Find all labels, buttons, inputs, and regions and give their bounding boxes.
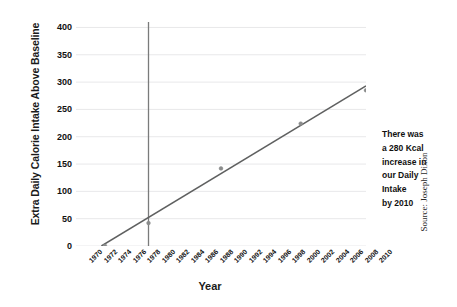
- y-axis-tick-labels: 050100150200250300350400: [36, 22, 72, 246]
- source-credit: Source: Joseph Dixon: [419, 132, 429, 252]
- data-point: [364, 88, 366, 92]
- annotation-line-5: Intake: [382, 183, 448, 197]
- x-axis-tick-labels: 1970197219741976197819801982198419861988…: [76, 248, 366, 278]
- annotation-line-1: There was: [382, 128, 448, 142]
- y-tick-label: 150: [38, 159, 72, 169]
- x-tick-label: 1978: [146, 248, 162, 264]
- gridlines: [76, 27, 366, 246]
- x-tick-label: 1976: [131, 248, 147, 264]
- x-tick-label: 1974: [117, 248, 133, 264]
- y-tick-label: 200: [38, 132, 72, 142]
- x-tick-label: 1992: [247, 248, 263, 264]
- y-tick-label: 350: [38, 50, 72, 60]
- x-tick-label: 1994: [262, 248, 278, 264]
- x-tick-label: 1990: [233, 248, 249, 264]
- y-tick-label: 0: [38, 241, 72, 251]
- x-tick-label: 2002: [320, 248, 336, 264]
- y-tick-label: 300: [38, 77, 72, 87]
- annotation-line-6: by 2010: [382, 197, 448, 211]
- x-tick-label: 1986: [204, 248, 220, 264]
- y-tick-label: 400: [38, 22, 72, 32]
- data-point: [299, 122, 303, 126]
- callout-annotation: There was a 280 Kcal increase in our Dai…: [382, 128, 448, 211]
- x-tick-label: 1982: [175, 248, 191, 264]
- y-tick-label: 50: [38, 214, 72, 224]
- plot-area: [76, 22, 366, 246]
- annotation-line-2: a 280 Kcal: [382, 142, 448, 156]
- chart-canvas: [76, 22, 366, 246]
- data-point: [147, 221, 151, 225]
- data-point: [219, 167, 223, 171]
- annotation-line-4: our Daily: [382, 169, 448, 183]
- chart-figure: Extra Daily Calorie Intake Above Baselin…: [0, 0, 457, 307]
- x-tick-label: 1998: [291, 248, 307, 264]
- x-tick-label: 2008: [363, 248, 379, 264]
- x-tick-label: 1996: [276, 248, 292, 264]
- x-axis-title: Year: [60, 280, 360, 292]
- y-tick-label: 100: [38, 186, 72, 196]
- trend-line: [101, 86, 366, 246]
- x-tick-label: 1972: [102, 248, 118, 264]
- data-point: [103, 244, 107, 246]
- x-tick-label: 1984: [189, 248, 205, 264]
- x-tick-label: 1970: [88, 248, 104, 264]
- annotation-line-3: increase in: [382, 156, 448, 170]
- x-tick-label: 2000: [305, 248, 321, 264]
- x-tick-label: 1980: [160, 248, 176, 264]
- x-tick-label: 1988: [218, 248, 234, 264]
- trend-line-path: [101, 86, 366, 246]
- x-tick-label: 2004: [334, 248, 350, 264]
- data-point-markers: [103, 88, 366, 246]
- y-tick-label: 250: [38, 104, 72, 114]
- x-tick-label: 2006: [349, 248, 365, 264]
- x-tick-label: 2010: [378, 248, 394, 264]
